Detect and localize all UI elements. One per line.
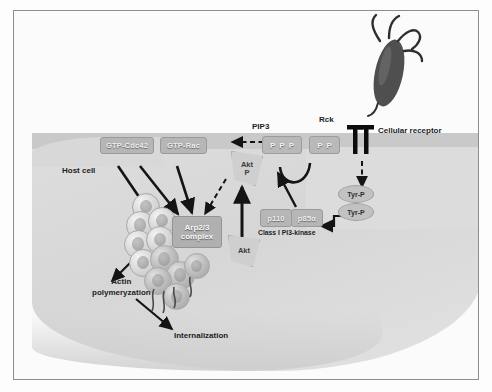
label-actin-line1: Actin	[92, 277, 151, 288]
node-p110-label: p110	[267, 214, 284, 223]
figure-canvas: GTP-Cdc42 GTP-Rac Arp2/3 complex P P P P…	[0, 0, 492, 392]
node-tyr-p-lower-label: Tyr-P	[347, 209, 364, 216]
phosphate-1: P	[270, 141, 275, 150]
node-gtp-rac-label: GTP-Rac	[167, 141, 200, 150]
label-cellular-receptor: Cellular receptor	[378, 126, 442, 135]
node-gtp-cdc42-label: GTP-Cdc42	[106, 141, 148, 150]
node-pip3-phosphates[interactable]: P P P	[262, 136, 302, 154]
node-arp23-line1: Arp2/3	[185, 223, 210, 232]
label-actin-line2: polymeryzation	[92, 288, 151, 299]
label-class-i-pi3-kinase: Class I PI3-kinase	[258, 229, 315, 236]
node-gtp-cdc42[interactable]: GTP-Cdc42	[100, 137, 154, 154]
label-actin-polymerization: Actin polymeryzation	[92, 277, 151, 299]
label-host-cell: Host cell	[62, 166, 95, 175]
node-p85-alpha[interactable]: p85α	[291, 209, 323, 227]
node-tyr-p-upper[interactable]: Tyr-P	[338, 185, 374, 203]
node-arp23-line2: complex	[181, 232, 213, 241]
node-akt-p-line2: P	[244, 169, 249, 177]
phosphate-3: P	[289, 141, 294, 150]
node-pip2-phosphates[interactable]: P P	[309, 136, 340, 154]
node-tyr-p-upper-label: Tyr-P	[347, 191, 364, 198]
phosphate-2: P	[279, 141, 284, 150]
figure-frame: GTP-Cdc42 GTP-Rac Arp2/3 complex P P P P…	[13, 10, 479, 380]
node-akt-label: Akt	[238, 247, 250, 255]
phosphate-2: P	[327, 141, 332, 150]
actin-filament-tails	[14, 11, 478, 379]
node-arp23-complex[interactable]: Arp2/3 complex	[172, 216, 222, 248]
label-rck: Rck	[319, 115, 334, 124]
node-gtp-rac[interactable]: GTP-Rac	[160, 137, 207, 154]
label-internalization: Internalization	[174, 331, 228, 340]
node-p110[interactable]: p110	[260, 209, 292, 227]
phosphate-1: P	[317, 141, 322, 150]
label-pip3: PIP3	[252, 122, 269, 131]
node-tyr-p-lower[interactable]: Tyr-P	[338, 203, 374, 221]
node-p85-alpha-label: p85α	[298, 214, 316, 223]
